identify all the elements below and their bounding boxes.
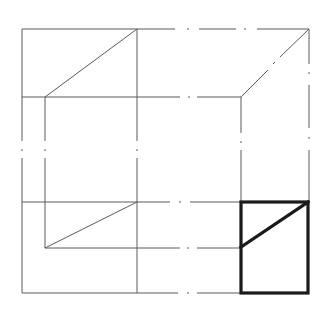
horizontal-projection-lines-top — [137, 29, 309, 97]
result-diagonal — [241, 202, 308, 247]
diagonal-edge — [45, 29, 137, 97]
miter-segment — [280, 29, 309, 57]
top-left-view — [22, 29, 137, 97]
miter-segment — [241, 70, 268, 97]
bottom-left-view — [22, 202, 137, 293]
result-view — [241, 202, 308, 293]
vertical-projection-lines-left — [22, 97, 137, 202]
result-outline — [241, 202, 308, 293]
diagonal-edge — [45, 202, 137, 248]
projection-diagram — [0, 0, 330, 313]
horizontal-projection-lines-bottom — [137, 202, 241, 293]
miter-line — [241, 29, 309, 97]
vertical-projection-lines-right — [241, 29, 309, 202]
miter-dot — [273, 62, 275, 64]
